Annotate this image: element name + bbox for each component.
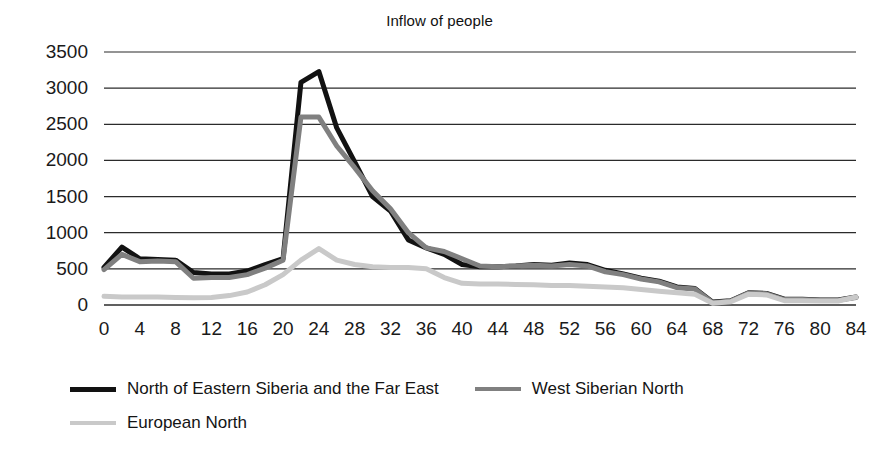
x-tick-label: 52 bbox=[550, 319, 590, 338]
x-tick-label: 24 bbox=[299, 319, 339, 338]
x-tick-label: 76 bbox=[764, 319, 804, 338]
legend-entry-0[interactable]: North of Eastern Siberia and the Far Eas… bbox=[70, 379, 439, 399]
x-tick-label: 60 bbox=[621, 319, 661, 338]
y-tick-label: 1500 bbox=[28, 187, 88, 206]
x-tick-label: 8 bbox=[156, 319, 196, 338]
y-tick-label: 3500 bbox=[28, 42, 88, 61]
y-tick-label: 3000 bbox=[28, 78, 88, 97]
x-tick-label: 20 bbox=[263, 319, 303, 338]
y-tick-label: 1000 bbox=[28, 223, 88, 242]
y-tick-label: 2500 bbox=[28, 114, 88, 133]
x-tick-label: 44 bbox=[478, 319, 518, 338]
x-tick-label: 72 bbox=[729, 319, 769, 338]
x-tick-label: 4 bbox=[120, 319, 160, 338]
x-tick-label: 36 bbox=[406, 319, 446, 338]
legend-swatch-icon-2 bbox=[70, 421, 116, 425]
x-tick-label: 64 bbox=[657, 319, 697, 338]
x-tick-label: 68 bbox=[693, 319, 733, 338]
x-tick-label: 56 bbox=[585, 319, 625, 338]
y-tick-label: 2000 bbox=[28, 150, 88, 169]
y-tick-label: 0 bbox=[28, 295, 88, 314]
legend-row: European North bbox=[70, 406, 870, 440]
legend-swatch-icon-0 bbox=[70, 387, 116, 392]
x-tick-label: 84 bbox=[836, 319, 876, 338]
x-tick-label: 0 bbox=[84, 319, 124, 338]
x-tick-label: 40 bbox=[442, 319, 482, 338]
legend-row: North of Eastern Siberia and the Far Eas… bbox=[70, 372, 870, 406]
legend-label-2: European North bbox=[127, 413, 247, 433]
legend-label-0: North of Eastern Siberia and the Far Eas… bbox=[127, 379, 439, 399]
y-tick-label: 500 bbox=[28, 259, 88, 278]
legend-label-1: West Siberian North bbox=[532, 379, 684, 399]
x-tick-label: 28 bbox=[335, 319, 375, 338]
chart-container: Inflow of people 05001000150020002500300… bbox=[0, 0, 879, 459]
legend-swatch-icon-1 bbox=[475, 387, 521, 391]
x-tick-label: 12 bbox=[191, 319, 231, 338]
legend-entry-2[interactable]: European North bbox=[70, 413, 247, 433]
x-tick-label: 32 bbox=[370, 319, 410, 338]
x-tick-label: 48 bbox=[514, 319, 554, 338]
chart-legend: North of Eastern Siberia and the Far Eas… bbox=[70, 372, 870, 440]
x-tick-label: 16 bbox=[227, 319, 267, 338]
legend-entry-1[interactable]: West Siberian North bbox=[475, 379, 684, 399]
x-tick-label: 80 bbox=[800, 319, 840, 338]
